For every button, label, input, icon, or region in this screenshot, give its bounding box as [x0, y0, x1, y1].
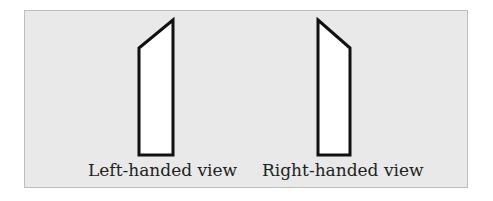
right-handed-caption: Right-handed view: [262, 160, 424, 180]
right-handed-shape: [318, 20, 350, 155]
left-handed-shape: [139, 20, 173, 155]
left-handed-caption: Left-handed view: [88, 160, 237, 180]
